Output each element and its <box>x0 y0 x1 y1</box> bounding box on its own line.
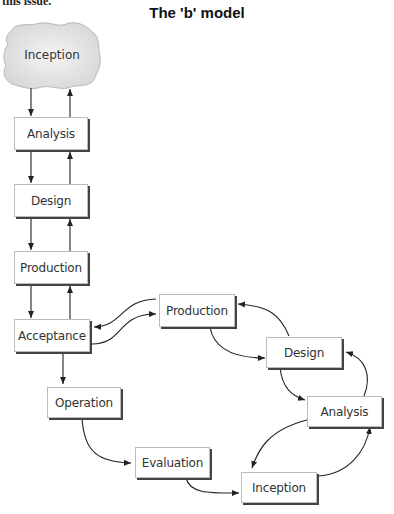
box-analysis-left: Analysis <box>14 117 88 150</box>
box-design-loop: Design <box>266 337 342 368</box>
box-design-left: Design <box>14 184 88 217</box>
cloud-inception: Inception <box>14 48 90 62</box>
box-operation: Operation <box>47 387 121 418</box>
box-evaluation: Evaluation <box>135 447 210 478</box>
box-inception-loop: Inception <box>241 472 317 503</box>
box-analysis-loop: Analysis <box>307 396 382 427</box>
box-production-loop: Production <box>159 294 235 327</box>
box-acceptance: Acceptance <box>14 319 90 352</box>
box-production-left: Production <box>14 251 88 284</box>
